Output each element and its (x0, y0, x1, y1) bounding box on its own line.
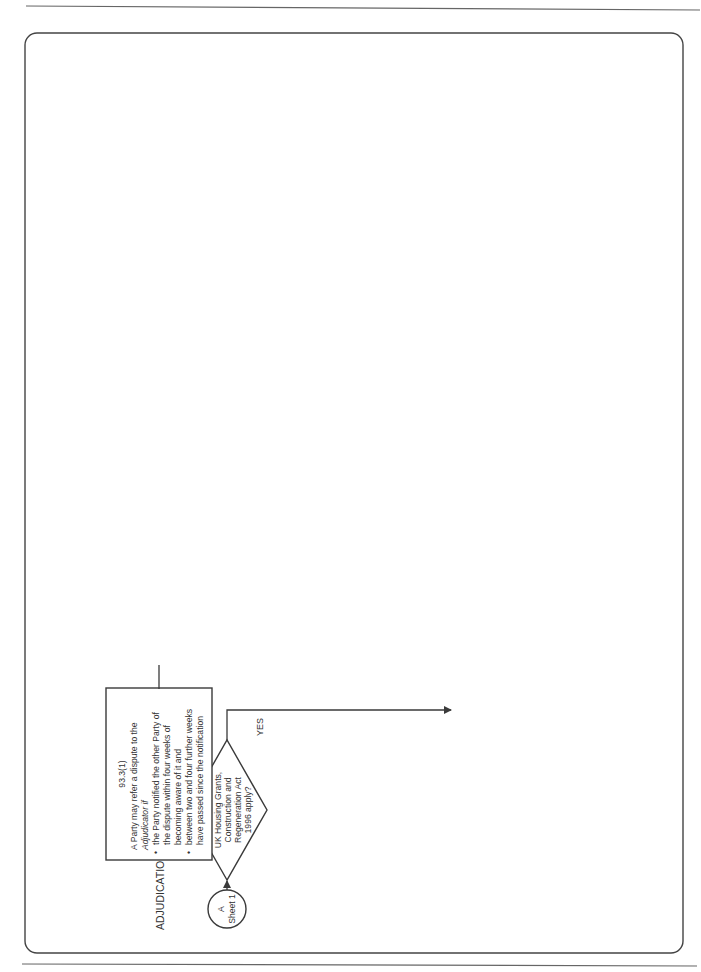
page-heading: ADJUDICATION (154, 853, 166, 930)
bullet-1: • (151, 851, 161, 854)
bullet-2: • (184, 851, 194, 854)
clause-93-3-1-line-2: Adjudicator if (140, 799, 150, 851)
connector-a-sheet: Sheet 1 (227, 894, 237, 924)
decision-uk-act-line-4: Regeneration Act (233, 776, 243, 843)
clause-93-3-1-line-6: between two and four further weeks (184, 709, 194, 845)
clause-93-3-1-line-5: becoming aware of it and (173, 749, 183, 845)
uk-act-yes-label: YES (255, 718, 265, 736)
clause-93-3-1-line-1: A Party may refer a dispute to the (129, 722, 139, 850)
decision-uk-act-line-2: UK Housing Grants, (213, 772, 223, 848)
connector-a-letter: A (216, 906, 226, 912)
connector-a-sheet-1: A Sheet 1 (208, 890, 246, 928)
top-page-rule (26, 6, 700, 10)
decision-uk-act-line-3: Construction and (223, 777, 233, 842)
clause-93-3-1-line-7: have passed since the notification (195, 716, 205, 845)
flowchart-page: ADJUDICATION A Sheet 1 Does the UK Housi… (0, 0, 701, 972)
clause-93-3-1-ref: 93.3(1) (117, 760, 127, 787)
decision-uk-act-line-5: 1996 apply? (243, 786, 253, 833)
clause-93-3-1-line-3: the Party notified the other Party of (151, 712, 161, 845)
bottom-page-rule (22, 964, 697, 966)
clause-93-3-1-line-4: the dispute within four weeks of (162, 724, 172, 845)
